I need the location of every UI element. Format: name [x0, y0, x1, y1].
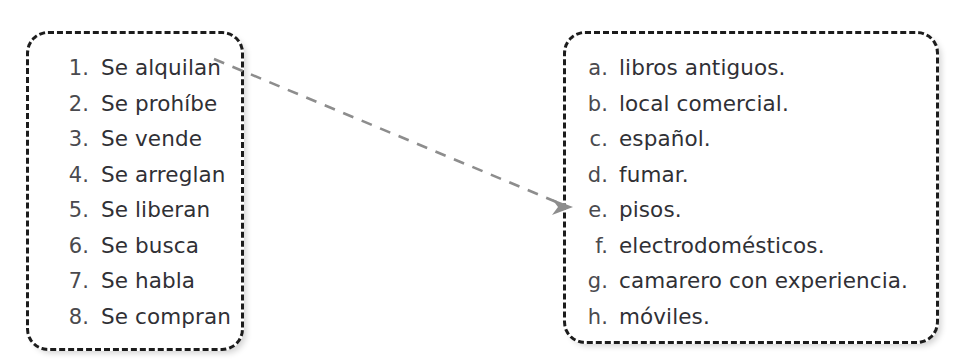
matching-exercise-page: 1.Se alquilan 2.Se prohíbe 3.Se vende 4.… [0, 0, 956, 360]
item-marker: 5. [55, 193, 101, 229]
item-marker: d. [578, 158, 619, 194]
item-label: local comercial. [619, 91, 789, 116]
item-label: fumar. [619, 162, 689, 187]
item-marker: 8. [55, 300, 101, 336]
item-marker: f. [578, 229, 619, 265]
list-item[interactable]: f.electrodomésticos. [578, 228, 908, 264]
item-label: Se alquilan [101, 55, 221, 80]
item-label: Se compran [101, 304, 231, 329]
item-label: camarero con experiencia. [619, 268, 908, 293]
item-label: Se vende [101, 126, 202, 151]
right-completion-box: a.libros antiguos. b.local comercial. c.… [563, 31, 939, 344]
item-label: Se prohíbe [101, 91, 217, 116]
item-label: Se liberan [101, 197, 210, 222]
item-marker: g. [578, 264, 619, 300]
lettered-completion-list: a.libros antiguos. b.local comercial. c.… [578, 50, 908, 334]
list-item[interactable]: 6.Se busca [55, 228, 231, 264]
item-marker: 4. [55, 158, 101, 194]
list-item[interactable]: 1.Se alquilan [55, 50, 231, 86]
item-marker: b. [578, 87, 619, 123]
item-marker: 2. [55, 87, 101, 123]
list-item[interactable]: 5.Se liberan [55, 192, 231, 228]
item-marker: 3. [55, 122, 101, 158]
list-item[interactable]: d.fumar. [578, 157, 908, 193]
left-phrase-box: 1.Se alquilan 2.Se prohíbe 3.Se vende 4.… [26, 31, 244, 351]
list-item[interactable]: 2.Se prohíbe [55, 86, 231, 122]
item-label: Se habla [101, 268, 195, 293]
list-item[interactable]: 8.Se compran [55, 299, 231, 335]
list-item[interactable]: 3.Se vende [55, 121, 231, 157]
list-item[interactable]: 7.Se habla [55, 263, 231, 299]
list-item[interactable]: 4.Se arreglan [55, 157, 231, 193]
item-label: Se arreglan [101, 162, 225, 187]
item-label: Se busca [101, 233, 199, 258]
item-marker: 1. [55, 51, 101, 87]
item-label: electrodomésticos. [619, 233, 825, 258]
match-line-1-to-e [214, 59, 566, 206]
list-item[interactable]: b.local comercial. [578, 86, 908, 122]
item-marker: c. [578, 122, 619, 158]
item-marker: 6. [55, 229, 101, 265]
item-marker: a. [578, 51, 619, 87]
item-marker: h. [578, 300, 619, 336]
item-label: libros antiguos. [619, 55, 785, 80]
list-item[interactable]: g.camarero con experiencia. [578, 263, 908, 299]
item-marker: 7. [55, 264, 101, 300]
numbered-phrase-list: 1.Se alquilan 2.Se prohíbe 3.Se vende 4.… [55, 50, 231, 334]
item-label: español. [619, 126, 711, 151]
item-label: pisos. [619, 197, 682, 222]
item-marker: e. [578, 193, 619, 229]
list-item[interactable]: c.español. [578, 121, 908, 157]
item-label: móviles. [619, 304, 710, 329]
list-item[interactable]: e.pisos. [578, 192, 908, 228]
list-item[interactable]: a.libros antiguos. [578, 50, 908, 86]
list-item[interactable]: h.móviles. [578, 299, 908, 335]
